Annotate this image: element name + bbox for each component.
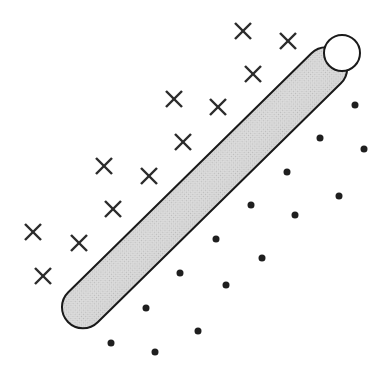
dot-marker <box>143 305 150 312</box>
bar-end-cap-circle <box>324 35 360 71</box>
dot-marker <box>223 282 230 289</box>
dot-marker <box>195 328 202 335</box>
dot-marker <box>108 340 115 347</box>
dot-marker <box>336 193 343 200</box>
dot-marker <box>177 270 184 277</box>
dot-marker <box>284 169 291 176</box>
diagram-canvas <box>0 0 388 386</box>
dot-marker <box>248 202 255 209</box>
dot-marker <box>259 255 266 262</box>
dot-marker <box>292 212 299 219</box>
dot-marker <box>317 135 324 142</box>
dot-marker <box>352 102 359 109</box>
dot-marker <box>213 236 220 243</box>
dot-marker <box>152 349 159 356</box>
figure-root <box>0 0 388 386</box>
dot-marker <box>361 146 368 153</box>
